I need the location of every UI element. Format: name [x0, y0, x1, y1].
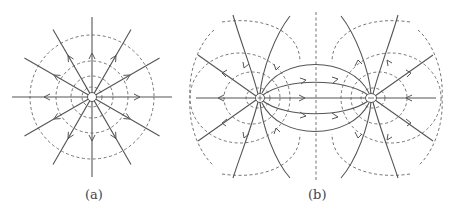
- figure-canvas: [0, 0, 452, 216]
- field-line: [94, 29, 131, 93]
- panel-b-dipole: [190, 12, 442, 182]
- field-line: [96, 99, 160, 136]
- caption-b: (b): [308, 187, 326, 202]
- caption-a: (a): [85, 187, 103, 202]
- point-charge-icon: [88, 93, 97, 102]
- panel-a-point-charge: [12, 17, 172, 177]
